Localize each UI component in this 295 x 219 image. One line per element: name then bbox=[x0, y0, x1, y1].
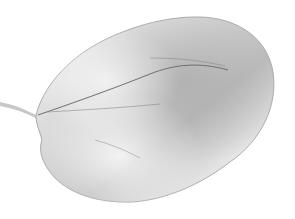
leaf-image bbox=[0, 0, 295, 219]
leaf-illustration bbox=[0, 0, 295, 219]
stem bbox=[0, 102, 38, 118]
